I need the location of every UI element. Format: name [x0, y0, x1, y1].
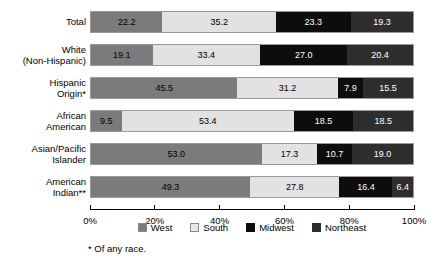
bar-segment-west: 53.0: [91, 144, 262, 164]
x-axis: 0%20%40%60%80%100%: [90, 209, 414, 210]
bar-segment-northeast: 20.4: [347, 45, 413, 65]
legend-label: Northeast: [325, 222, 366, 233]
chart-plot-area: Total22.235.223.319.3White (Non-Hispanic…: [0, 11, 434, 209]
bar-segment-northeast: 19.0: [352, 144, 413, 164]
legend-swatch-icon: [138, 223, 147, 232]
bar-segment-northeast: 6.4: [392, 177, 413, 197]
category-label: African American: [0, 111, 86, 132]
axis-tick: [219, 205, 220, 210]
bar-segment-west: 9.5: [91, 111, 122, 131]
bar-segment-south: 33.4: [153, 45, 261, 65]
legend-swatch-icon: [246, 223, 255, 232]
bar-segment-northeast: 15.5: [363, 78, 413, 98]
bar-segment-west: 49.3: [91, 177, 250, 197]
chart-row: Total22.235.223.319.3: [0, 11, 434, 33]
axis-tick: [349, 205, 350, 210]
chart-legend: WestSouthMidwestNortheast: [90, 222, 414, 233]
bar-segment-south: 35.2: [162, 12, 275, 32]
bar-segment-west: 22.2: [91, 12, 162, 32]
legend-label: West: [151, 222, 172, 233]
legend-swatch-icon: [190, 223, 199, 232]
category-label: Asian/Pacific Islander: [0, 144, 86, 165]
category-label: American Indian**: [0, 177, 86, 198]
bar-segment-south: 53.4: [122, 111, 294, 131]
legend-label: South: [203, 222, 228, 233]
bar-segment-midwest: 7.9: [338, 78, 363, 98]
axis-tick: [154, 205, 155, 210]
bar-segment-midwest: 23.3: [276, 12, 351, 32]
legend-item-west: West: [138, 222, 172, 233]
axis-tick: [284, 205, 285, 210]
bar-segment-midwest: 18.5: [294, 111, 354, 131]
stacked-bar: 45.531.27.915.5: [90, 77, 414, 99]
bar-segment-west: 45.5: [91, 78, 237, 98]
stacked-bar: 19.133.427.020.4: [90, 44, 414, 66]
legend-swatch-icon: [312, 223, 321, 232]
legend-item-midwest: Midwest: [246, 222, 294, 233]
stacked-bar: 49.327.816.46.4: [90, 176, 414, 198]
axis-tick: [90, 205, 91, 210]
chart-row: Asian/Pacific Islander53.017.310.719.0: [0, 143, 434, 165]
category-label: White (Non-Hispanic): [0, 45, 86, 66]
bar-segment-south: 31.2: [237, 78, 337, 98]
legend-label: Midwest: [259, 222, 294, 233]
axis-tick: [414, 205, 415, 210]
bar-segment-west: 19.1: [91, 45, 153, 65]
bar-segment-midwest: 16.4: [339, 177, 392, 197]
bar-segment-northeast: 18.5: [353, 111, 413, 131]
chart-row: African American9.553.418.518.5: [0, 110, 434, 132]
bar-segment-south: 17.3: [262, 144, 318, 164]
stacked-bar: 53.017.310.719.0: [90, 143, 414, 165]
category-label: Total: [0, 17, 86, 28]
chart-row: Hispanic Origin*45.531.27.915.5: [0, 77, 434, 99]
footnote: * Of any race.: [88, 243, 146, 254]
chart-row: White (Non-Hispanic)19.133.427.020.4: [0, 44, 434, 66]
stacked-bar: 22.235.223.319.3: [90, 11, 414, 33]
legend-item-northeast: Northeast: [312, 222, 366, 233]
chart-row: American Indian**49.327.816.46.4: [0, 176, 434, 198]
bar-segment-midwest: 27.0: [260, 45, 347, 65]
stacked-bar-chart: Total22.235.223.319.3White (Non-Hispanic…: [0, 0, 434, 261]
legend-item-south: South: [190, 222, 228, 233]
bar-segment-northeast: 19.3: [351, 12, 413, 32]
category-label: Hispanic Origin*: [0, 78, 86, 99]
bar-segment-south: 27.8: [250, 177, 340, 197]
bar-segment-midwest: 10.7: [317, 144, 351, 164]
stacked-bar: 9.553.418.518.5: [90, 110, 414, 132]
